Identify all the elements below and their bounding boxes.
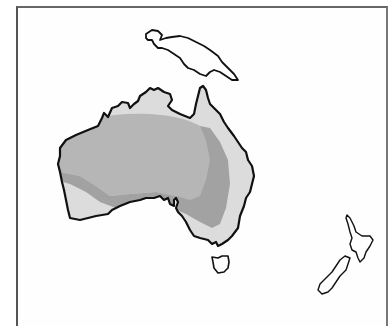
nz-south-island-outline	[318, 256, 350, 294]
new-guinea-outline	[146, 30, 238, 80]
nz-north-island-outline	[346, 215, 373, 262]
tasmania-outline	[212, 256, 229, 273]
australia-landmass	[40, 86, 254, 246]
